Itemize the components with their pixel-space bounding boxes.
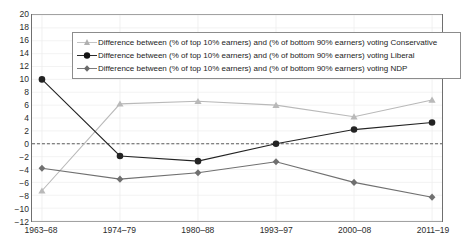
x-axis-tick-label: 2000–08	[338, 226, 371, 235]
x-axis-tick-label: 2011–19	[417, 226, 449, 235]
series-triangle	[38, 97, 435, 194]
chart-container: 20181614121086420−2−4−6−8−10−12 Differen…	[0, 0, 469, 245]
x-axis-tick-label: 1980–88	[181, 226, 214, 235]
y-axis-tick-label: 4	[3, 114, 29, 123]
data-point	[117, 176, 124, 183]
x-axis-tick-labels: 1963–681974–791980–881993–972000–082011–…	[31, 226, 443, 240]
x-axis-tick-label: 1963–68	[24, 226, 57, 235]
x-axis-tick-label: 1993–97	[260, 226, 293, 235]
data-point	[195, 169, 202, 176]
data-point	[273, 158, 280, 165]
legend-label-ndp: Difference between (% of top 10% earners…	[98, 63, 407, 74]
y-axis-tick-label: 18	[3, 23, 29, 32]
data-point	[117, 153, 124, 160]
y-axis-tick-label: 6	[3, 101, 29, 110]
y-axis-tick-label: 10	[3, 75, 29, 84]
y-axis-tick-label: −8	[3, 192, 29, 201]
y-axis-tick-label: 14	[3, 49, 29, 58]
legend-item-liberal[interactable]: Difference between (% of top 10% earners…	[76, 49, 456, 62]
data-point	[39, 76, 46, 83]
y-axis-tick-labels: 20181614121086420−2−4−6−8−10−12	[0, 14, 29, 222]
legend-label-conservative: Difference between (% of top 10% earners…	[98, 37, 437, 48]
data-point	[351, 179, 358, 186]
y-axis-tick-label: −10	[3, 205, 29, 214]
triangle-marker-icon	[76, 37, 98, 48]
y-axis-tick-label: 2	[3, 127, 29, 136]
plot-area: Difference between (% of top 10% earners…	[31, 14, 443, 222]
y-axis-tick-label: −6	[3, 179, 29, 188]
circle-marker-icon	[76, 50, 98, 61]
legend-item-conservative[interactable]: Difference between (% of top 10% earners…	[76, 36, 456, 49]
chart-legend: Difference between (% of top 10% earners…	[72, 32, 461, 79]
data-point	[351, 126, 358, 133]
y-axis-tick-label: 0	[3, 140, 29, 149]
legend-label-liberal: Difference between (% of top 10% earners…	[98, 50, 414, 61]
data-point	[428, 97, 435, 103]
data-point	[195, 158, 202, 165]
data-point	[39, 165, 46, 172]
diamond-marker-icon	[76, 63, 98, 74]
data-point	[429, 119, 436, 126]
y-axis-tick-label: −4	[3, 166, 29, 175]
y-axis-tick-label: 20	[3, 10, 29, 19]
y-axis-tick-label: −2	[3, 153, 29, 162]
series-diamond	[39, 158, 436, 201]
x-axis-tick-label: 1974–79	[103, 226, 136, 235]
data-point	[273, 140, 280, 147]
y-axis-tick-label: 12	[3, 62, 29, 71]
series-circle	[39, 76, 436, 164]
y-axis-tick-label: 8	[3, 88, 29, 97]
legend-item-ndp[interactable]: Difference between (% of top 10% earners…	[76, 62, 456, 75]
y-axis-tick-label: 16	[3, 36, 29, 45]
data-point	[429, 194, 436, 201]
